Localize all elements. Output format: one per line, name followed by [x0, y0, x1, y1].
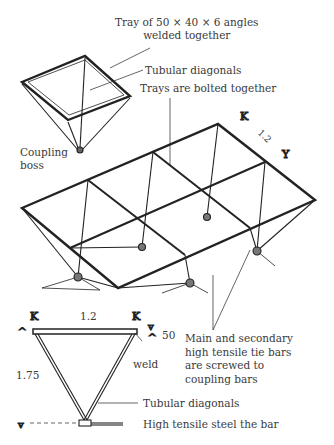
label-dim-depth: 50	[162, 329, 175, 342]
label-weld: weld	[133, 358, 158, 371]
svg-text:^: ^	[148, 331, 156, 342]
label-dim-width: 1.2	[80, 310, 97, 323]
svg-text:K: K	[240, 110, 249, 123]
label-tubular-diagonals-bottom: Tubular diagonals	[143, 397, 239, 410]
label-trays-bolted: Trays are bolted together	[140, 82, 276, 95]
svg-text:K: K	[30, 310, 39, 323]
svg-text:Y: Y	[281, 148, 290, 161]
tray-assembly: K Y	[22, 98, 315, 330]
svg-text:v: v	[17, 419, 24, 430]
label-steel-bar: High tensile steel the bar	[143, 418, 278, 431]
label-tie-bars: Main and secondary high tensile tie bars…	[185, 332, 293, 386]
label-dim-height: 1.75	[16, 369, 39, 382]
label-coupling-boss: Coupling boss	[20, 146, 68, 172]
label-tray: Tray of 50 × 40 × 6 angles welded togeth…	[115, 16, 259, 42]
label-tubular-diagonals-top: Tubular diagonals	[145, 64, 241, 77]
svg-text:K: K	[132, 310, 141, 323]
single-tray-unit	[22, 48, 150, 153]
svg-text:^: ^	[18, 325, 26, 336]
